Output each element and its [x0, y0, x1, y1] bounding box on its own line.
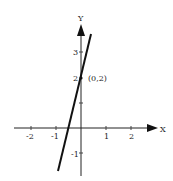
y-tick-label: -1	[71, 150, 79, 159]
y-axis-arrow-icon	[77, 24, 85, 36]
y-axis-label: Y	[77, 14, 84, 23]
x-tick-label: -2	[26, 132, 34, 141]
graph: X Y (0,2) -2 -1 1 2 3 2 -1	[0, 0, 173, 181]
y-tick-label: 2	[73, 74, 78, 83]
x-tick-label: -1	[51, 132, 59, 141]
point-label: (0,2)	[88, 74, 107, 83]
x-axis-arrow-icon	[147, 124, 158, 132]
x-tick-label: 1	[104, 132, 109, 141]
x-tick-label: 2	[129, 132, 134, 141]
point-marker	[79, 76, 82, 79]
y-tick-label: 3	[73, 48, 78, 57]
x-axis-label: X	[160, 125, 166, 134]
